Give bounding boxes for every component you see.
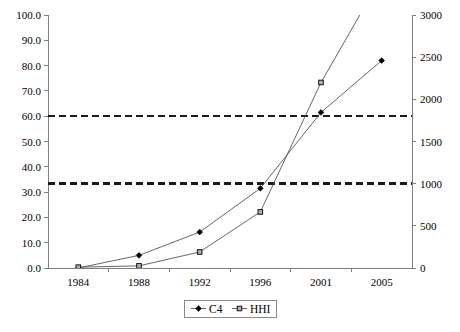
x-axis-tick-label: 2001	[310, 276, 332, 288]
left-axis-tick-label: 70.0	[22, 85, 42, 97]
x-axis-tick-label: 2005	[371, 276, 394, 288]
left-axis-tick-label: 10.0	[22, 237, 42, 249]
left-axis: 0.010.020.030.040.050.060.070.080.090.01…	[16, 9, 48, 274]
right-axis-tick-label: 2500	[420, 51, 443, 63]
chart-legend: C4HHI	[184, 300, 276, 317]
data-point-hhi	[197, 250, 202, 255]
data-point-hhi	[137, 264, 142, 269]
data-point-c4	[197, 229, 203, 235]
left-axis-tick-label: 100.0	[16, 9, 41, 21]
reference-lines	[48, 116, 412, 183]
series-c4	[75, 58, 384, 271]
right-axis-tick-label: 1000	[420, 178, 443, 190]
series-hhi	[76, 0, 382, 269]
left-axis-tick-label: 20.0	[22, 211, 42, 223]
right-axis: 050010001500200025003000	[412, 9, 443, 274]
legend-label-c4: C4	[209, 303, 223, 315]
chart-container: 0.010.020.030.040.050.060.070.080.090.01…	[0, 0, 460, 332]
right-axis-tick-label: 3000	[420, 9, 443, 21]
data-point-hhi	[258, 210, 263, 215]
left-axis-tick-label: 60.0	[22, 110, 42, 122]
data-point-hhi	[319, 80, 324, 85]
series-line-hhi	[78, 0, 381, 267]
line-chart: 0.010.020.030.040.050.060.070.080.090.01…	[0, 0, 460, 332]
left-axis-tick-label: 90.0	[22, 34, 42, 46]
data-point-hhi	[76, 265, 81, 270]
x-axis: 198419881992199620012005	[48, 268, 412, 288]
series-line-c4	[78, 61, 381, 268]
right-axis-tick-label: 1500	[420, 136, 443, 148]
data-point-c4	[136, 252, 142, 258]
left-axis-tick-label: 50.0	[22, 136, 42, 148]
x-axis-tick-label: 1996	[249, 276, 272, 288]
left-axis-tick-label: 80.0	[22, 60, 42, 72]
left-axis-tick-label: 30.0	[22, 186, 42, 198]
left-axis-tick-label: 0.0	[27, 262, 41, 274]
left-axis-tick-label: 40.0	[22, 161, 42, 173]
right-axis-tick-label: 2000	[420, 93, 443, 105]
legend-label-hhi: HHI	[250, 303, 271, 315]
right-axis-tick-label: 500	[420, 220, 437, 232]
right-axis-tick-label: 0	[420, 262, 426, 274]
x-axis-tick-label: 1992	[189, 276, 211, 288]
x-axis-tick-label: 1984	[67, 276, 90, 288]
x-axis-tick-label: 1988	[128, 276, 151, 288]
legend-marker-hhi	[237, 306, 242, 311]
